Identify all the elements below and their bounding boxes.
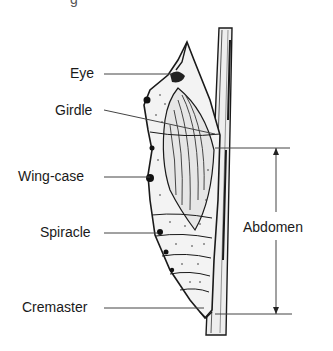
label-girdle: Girdle [55, 103, 92, 117]
label-abdomen: Abdomen [243, 220, 303, 234]
label-eye: Eye [70, 66, 94, 80]
label-wing-case: Wing-case [18, 169, 84, 183]
label-cremaster: Cremaster [22, 300, 87, 314]
pupa-body [144, 42, 221, 318]
label-spiracle: Spiracle [40, 225, 91, 239]
pupa-diagram: g [0, 0, 333, 351]
